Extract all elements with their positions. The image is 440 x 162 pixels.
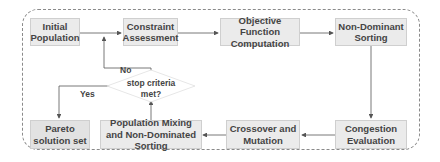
node-label: Constraint Assessment bbox=[123, 21, 179, 44]
node-label: Objective Function Computation bbox=[221, 15, 299, 49]
node-objective-function: Objective Function Computation bbox=[220, 18, 300, 46]
node-label: Non-Dominant Sorting bbox=[336, 21, 406, 44]
node-crossover-mutation: Crossover and Mutation bbox=[226, 120, 300, 149]
node-label: Pareto solution set bbox=[31, 123, 89, 146]
node-constraint-assessment: Constraint Assessment bbox=[123, 18, 178, 46]
node-congestion-evaluation: Congestion Evaluation bbox=[335, 120, 407, 149]
node-non-dominant-sorting: Non-Dominant Sorting bbox=[335, 18, 407, 46]
node-label: Congestion Evaluation bbox=[336, 123, 406, 146]
edge-label-yes: Yes bbox=[80, 89, 95, 99]
decision-label: stop criteria met? bbox=[116, 78, 186, 99]
node-label: Initial Population bbox=[30, 21, 79, 44]
node-label: Crossover and Mutation bbox=[227, 123, 299, 146]
node-pareto-solution: Pareto solution set bbox=[30, 120, 90, 149]
node-label: Population Mixing and Non-Dominated Sort… bbox=[101, 117, 201, 151]
edge-label-no: No bbox=[120, 65, 131, 75]
node-initial-population: Initial Population bbox=[30, 18, 80, 46]
node-population-mixing: Population Mixing and Non-Dominated Sort… bbox=[100, 120, 202, 149]
